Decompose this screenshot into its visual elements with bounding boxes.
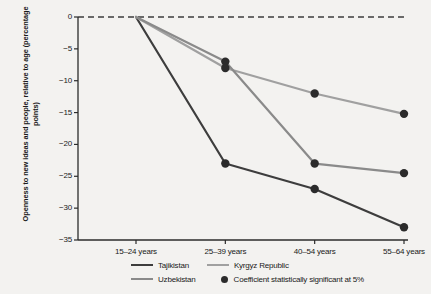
legend-label-tajikistan: Tajikistan [158, 261, 189, 270]
legend-label-uzbekistan: Uzbekistan [158, 275, 196, 284]
legend-item-kyrgyz-republic[interactable]: Kyrgyz Republic [207, 261, 289, 270]
legend-item-significance-marker[interactable]: Coefficient statistically significant at… [214, 275, 364, 284]
legend-row-2: Uzbekistan Coefficient statistically sig… [131, 272, 421, 286]
legend-swatch-kyrgyz-republic [207, 264, 229, 266]
legend-label-kyrgyz-republic: Kyrgyz Republic [234, 261, 289, 270]
legend-label-significance: Coefficient statistically significant at… [234, 275, 364, 284]
legend-item-tajikistan[interactable]: Tajikistan [131, 261, 189, 270]
significance-dot-icon [221, 276, 228, 283]
legend-swatch-tajikistan [131, 264, 153, 266]
chart-legend: Tajikistan Kyrgyz Republic Uzbekistan Co… [131, 258, 421, 286]
legend-item-uzbekistan[interactable]: Uzbekistan [131, 275, 196, 284]
chart-figure: Openness to new ideas and people, relati… [0, 0, 431, 294]
legend-swatch-uzbekistan [131, 278, 153, 280]
plot-canvas [0, 0, 431, 294]
legend-row-1: Tajikistan Kyrgyz Republic [131, 258, 421, 272]
